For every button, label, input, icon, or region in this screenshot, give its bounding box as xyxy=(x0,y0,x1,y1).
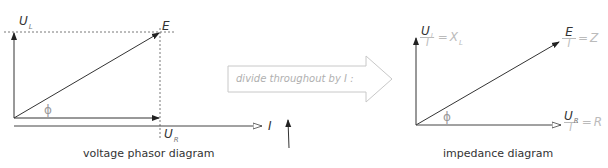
z-fraction-label: E I = Z xyxy=(562,26,598,49)
pointer-arrow xyxy=(288,120,289,148)
xl-fraction-label: UL I = XL xyxy=(419,25,462,48)
r-fraction-label: UR I = R xyxy=(562,110,602,133)
ur-label-main: U xyxy=(164,127,173,141)
r-num-main: U xyxy=(564,109,573,123)
e-label: E xyxy=(162,20,170,32)
xl-result-main: X xyxy=(450,30,458,44)
xl-result-sub: L xyxy=(459,39,463,47)
ur-label-sub: R xyxy=(174,136,179,144)
ul-label-main: U xyxy=(19,14,28,28)
impedance-phi-label: ϕ xyxy=(443,111,451,123)
equals-sign: = xyxy=(578,32,588,44)
e-phasor-arrow xyxy=(14,33,159,118)
xl-den: I xyxy=(426,38,429,48)
xl-num-main: U xyxy=(421,24,430,38)
equals-sign: = xyxy=(582,116,592,128)
z-phasor-arrow xyxy=(416,42,559,125)
current-axis-label: I xyxy=(268,120,272,132)
impedance-diagram xyxy=(416,38,561,125)
xl-num-sub: L xyxy=(431,32,435,40)
equals-sign: = xyxy=(438,31,448,43)
r-den: I xyxy=(569,123,572,133)
voltage-diagram-caption: voltage phasor diagram xyxy=(83,147,215,160)
ur-label: UR xyxy=(164,128,178,140)
phi-angle-label: ϕ xyxy=(44,104,52,116)
z-num: E xyxy=(563,26,575,38)
z-den: I xyxy=(568,39,571,49)
diagram-canvas xyxy=(0,0,608,168)
r-result: R xyxy=(594,116,602,128)
ul-label: UL xyxy=(19,15,32,27)
voltage-phasor-diagram xyxy=(4,28,262,140)
ul-label-sub: L xyxy=(29,23,33,31)
impedance-diagram-caption: impedance diagram xyxy=(443,147,553,160)
r-num-sub: R xyxy=(574,117,579,125)
z-result: Z xyxy=(590,32,598,44)
divide-instruction-text: divide throughout by I : xyxy=(236,73,354,84)
